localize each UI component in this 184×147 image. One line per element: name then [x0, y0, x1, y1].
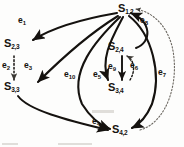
node-S42-subscript: 4,2	[119, 129, 127, 136]
edge-label-e9-subscript: 9	[113, 66, 116, 72]
edge-label-e7[interactable]: e7	[158, 68, 166, 77]
edge-label-e9[interactable]: e9	[108, 62, 116, 71]
node-S23-subscript: 2,3	[11, 43, 19, 50]
node-S24-subscript: 2,4	[115, 46, 123, 53]
edge-label-e3-subscript: 3	[29, 65, 32, 71]
edge-label-e4[interactable]: e4	[92, 117, 100, 126]
edge-label-e6-subscript: 6	[135, 65, 138, 71]
state-transition-diagram: S1,2 S2,3 S3,3 S2,4 S3,4 S4,2 e1 e2 e3 e…	[0, 0, 184, 147]
scan-speck	[2, 143, 18, 145]
scan-speck	[92, 110, 114, 113]
node-S34[interactable]: S3,4	[108, 82, 123, 93]
node-S23[interactable]: S2,3	[4, 38, 19, 49]
edge-label-e7-subscript: 7	[163, 72, 166, 78]
node-S42[interactable]: S4,2	[112, 124, 127, 135]
node-S12-subscript: 1,2	[125, 8, 133, 15]
node-S34-subscript: 3,4	[115, 87, 123, 94]
edge-label-e5-subscript: 5	[98, 74, 101, 80]
edge-label-e5[interactable]: e5	[93, 70, 101, 79]
edge-label-e2-subscript: 2	[7, 65, 10, 71]
scan-speck	[58, 143, 92, 145]
edge-label-e1[interactable]: e1	[18, 16, 26, 25]
edge-label-e6[interactable]: e6	[130, 61, 138, 70]
edge-label-e4-subscript: 4	[97, 121, 100, 127]
node-S12[interactable]: S1,2	[118, 3, 133, 14]
edge-path-e1	[33, 13, 117, 40]
edge-label-e8-subscript: 8	[145, 20, 148, 26]
node-S33[interactable]: S3,3	[4, 81, 19, 92]
node-S24[interactable]: S2,4	[108, 41, 123, 52]
edge-label-e10[interactable]: e10	[64, 70, 75, 79]
edge-label-e1-subscript: 1	[23, 20, 26, 26]
edge-label-e2[interactable]: e2	[2, 61, 10, 70]
edge-label-e10-subscript: 10	[69, 74, 76, 80]
node-S33-subscript: 3,3	[11, 86, 19, 93]
edge-label-e8[interactable]: e8	[140, 16, 148, 25]
edge-label-e3[interactable]: e3	[24, 61, 32, 70]
